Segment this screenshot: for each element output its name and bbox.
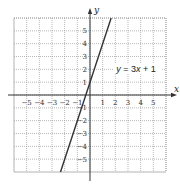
coordinate-plane: −5−4−3−2−112345−5−4−3−2−112345 x y y = 3… xyxy=(0,0,180,189)
y-tick-label: 3 xyxy=(83,53,87,61)
y-axis-label: y xyxy=(93,5,100,15)
y-tick-label: 4 xyxy=(83,40,88,48)
axes xyxy=(8,8,177,181)
equation-label: y = 3x + 1 xyxy=(115,64,156,74)
y-tick-label: −4 xyxy=(77,143,88,151)
x-tick-label: 3 xyxy=(126,99,130,107)
x-tick-label: 2 xyxy=(113,99,117,107)
y-tick-label: 5 xyxy=(83,27,87,35)
x-tick-label: 5 xyxy=(151,99,155,107)
y-tick-label: 2 xyxy=(83,66,87,74)
x-tick-label: −4 xyxy=(34,99,45,107)
y-tick-label: 1 xyxy=(83,79,87,87)
x-tick-label: −5 xyxy=(22,99,32,107)
x-axis-label: x xyxy=(174,84,179,94)
x-tick-label: 1 xyxy=(100,99,104,107)
x-tick-label: −2 xyxy=(60,99,70,107)
y-tick-label: −3 xyxy=(77,130,87,138)
x-tick-label: 4 xyxy=(138,99,143,107)
x-tick-label: −3 xyxy=(47,99,57,107)
y-axis-arrow-icon xyxy=(88,8,92,14)
y-tick-label: −5 xyxy=(77,156,87,164)
